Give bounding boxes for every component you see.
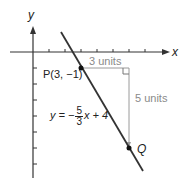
equation-label: y = −53x + 4 xyxy=(50,106,108,127)
run-label: 3 units xyxy=(89,55,121,67)
y-axis-arrow-icon xyxy=(30,26,36,34)
y-axis-label: y xyxy=(28,8,34,22)
point-p-label: P(3, −1) xyxy=(43,68,82,80)
line-graph xyxy=(61,32,143,171)
x-axis-arrow-icon xyxy=(162,49,170,55)
fraction: 53 xyxy=(75,106,83,127)
x-axis-label: x xyxy=(172,45,178,59)
rise-label: 5 units xyxy=(135,92,167,104)
point-q xyxy=(127,146,132,151)
right-angle-icon xyxy=(123,68,129,74)
point-q-label: Q xyxy=(137,142,146,156)
